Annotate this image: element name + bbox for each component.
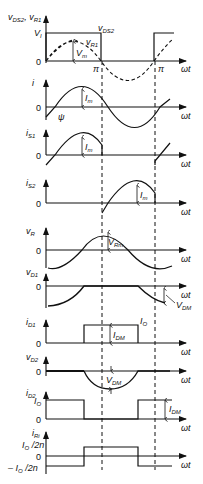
vdm-leader [166,295,175,303]
im-label: Im [85,142,93,153]
io-label: IO [140,316,148,327]
vdm-label: VDM [176,300,191,311]
idm-label: IDM [113,330,125,341]
zero-label: 0 [36,367,41,377]
wt-label: ωt [181,460,191,470]
pos-level-label: IO /2n [22,440,44,451]
panel-vd2 [46,357,186,394]
panel5-ylabel: vR [26,226,36,237]
zero-label: 0 [36,415,41,425]
panel7-ylabel: iD1 [26,317,36,328]
panel-i [46,80,186,128]
wt-label: ωt [181,254,191,264]
pi-label-2: π [158,64,165,74]
is1-waveform-2 [155,143,170,165]
panel10-ylabel: iRi [32,428,40,439]
im-label: Im [85,93,93,104]
panel-iri [46,432,186,474]
zero-label: 0 [36,103,41,113]
panel-vd1 [46,274,186,308]
wt-label: ωt [181,64,191,74]
neg-level-label: – IO /2n [7,463,38,474]
zero-label: 0 [36,452,41,462]
panel4-ylabel: iS2 [26,178,36,189]
wt-label: ωt [181,347,191,357]
zero-label: 0 [36,282,41,292]
panel-vds2-vr1 [46,16,186,81]
vm-label: Vm [76,48,87,59]
idm-label: IDM [169,404,181,415]
vd2-waveform [84,371,170,389]
panel-is1 [46,130,186,165]
im-label: Im [140,190,148,201]
pi-label-1: π [93,64,100,74]
zero-label: 0 [36,339,41,349]
vds2-waveform-2 [154,33,174,61]
is1-waveform [46,133,102,165]
vr1-waveform [46,40,172,81]
panel1-ylabel: vDS2, vR1 [8,12,41,23]
panel2-ylabel: i [32,78,35,88]
wt-label: ωt [181,290,191,300]
zero-label: 0 [36,151,41,161]
wt-label: ωt [181,375,191,385]
panel-vr [46,228,186,269]
waveform-diagram: vDS2, vR1 VI 0 vDS2 vR1 Vm π π ωt i 0 Im… [0,0,203,484]
panel-id2 [46,392,186,419]
zero-label: 0 [36,199,41,209]
panel6-ylabel: vD1 [26,267,38,278]
wt-label: ωt [181,111,191,121]
id1-waveform [84,325,138,343]
vr1-label: vR1 [86,37,98,48]
wt-label: ωt [181,207,191,217]
vds2-label: vDS2 [98,23,115,34]
zero-label: 0 [36,246,41,256]
psi-label: ψ [58,112,65,122]
io-level-label: IO [34,396,42,407]
vd1-waveform [48,286,165,306]
wt-label: ωt [181,423,191,433]
panel8-ylabel: vD2 [26,352,39,363]
wt-label: ωt [181,159,191,169]
zero-label: 0 [36,57,41,67]
vdm-label: VDM [106,375,121,386]
id2-waveform [46,400,172,419]
panel-is2 [46,180,186,213]
vrm-label: VRm [108,237,123,248]
panel3-ylabel: iS1 [26,128,35,139]
vi-level-label: VI [34,28,42,39]
